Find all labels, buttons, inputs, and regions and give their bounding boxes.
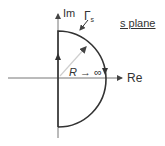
direction-arrow-up-icon (55, 53, 61, 60)
contour-label-symbol: Γ (84, 9, 91, 23)
radius-label: R → ∞ (69, 67, 102, 78)
contour-label: Γs (84, 10, 94, 23)
s-plane-diagram: Im Γs s plane Re R → ∞ (0, 0, 165, 146)
contour-path (58, 31, 106, 127)
contour-label-subscript: s (91, 16, 95, 23)
diagram-title: s plane (120, 18, 155, 29)
real-axis-label: Re (127, 72, 142, 84)
imaginary-axis-label: Im (63, 8, 75, 19)
direction-arrow-down-icon (102, 68, 108, 75)
